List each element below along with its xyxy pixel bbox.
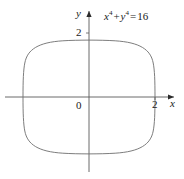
y-axis-arrow-icon — [86, 11, 91, 17]
y-axis-tick-label-2: 2 — [76, 27, 82, 38]
x-axis-tick-label-2: 2 — [152, 99, 158, 110]
origin-label: 0 — [76, 100, 82, 111]
x-axis-label: x — [170, 98, 175, 109]
y-axis-label: y — [76, 8, 81, 19]
tick-marks-group — [86, 33, 155, 100]
equation-equals-operator: = — [129, 10, 137, 22]
equation-annotation: x4+y4=16 — [104, 11, 148, 22]
axes-group — [5, 11, 174, 172]
equation-right-hand-side: 16 — [137, 10, 148, 22]
plot-canvas — [0, 0, 184, 179]
equation-plus-operator: + — [112, 10, 120, 22]
figure-container: y x 2 2 0 x4+y4=16 — [0, 0, 184, 179]
